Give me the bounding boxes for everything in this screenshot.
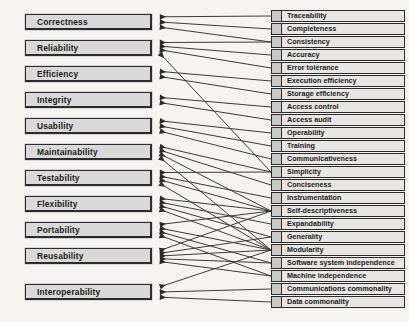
factor-label: Reusability [37, 251, 84, 261]
criterion-tab-marker [272, 219, 282, 229]
criterion-label: Instrumentation [287, 194, 341, 202]
criterion-tab-marker [272, 258, 282, 268]
criterion-tab-marker [272, 245, 282, 255]
criterion-row-communications-commonality[interactable]: Communications commonality [271, 283, 405, 295]
criterion-tab-marker [272, 128, 282, 138]
factor-box-usability[interactable]: Usability [25, 118, 152, 134]
factor-box-portability[interactable]: Portability [25, 222, 152, 238]
criterion-label: Access audit [287, 116, 331, 124]
edge-correctness-to-consistency [160, 27, 271, 42]
factor-label: Usability [37, 121, 73, 131]
criterion-row-completeness[interactable]: Completeness [271, 23, 405, 35]
factor-box-maintainability[interactable]: Maintainability [25, 144, 152, 160]
criterion-tab-marker [272, 11, 282, 21]
criterion-row-self-descriptiveness[interactable]: Self-descriptiveness [271, 205, 405, 217]
edge-interoperability-to-data-commonality [160, 297, 271, 302]
criterion-label: Data commonality [287, 298, 349, 306]
criterion-tab-marker [272, 24, 282, 34]
edge-usability-to-training [160, 126, 271, 146]
factor-label: Correctness [37, 17, 88, 27]
criterion-tab-marker [272, 206, 282, 216]
criterion-label: Communicativeness [287, 155, 357, 163]
edge-testability-to-simplicity [160, 172, 271, 173]
criterion-tab-marker [272, 115, 282, 125]
criterion-tab-marker [272, 154, 282, 164]
factor-box-reliability[interactable]: Reliability [25, 40, 152, 56]
factor-label: Flexibility [37, 199, 78, 209]
criterion-row-communicativeness[interactable]: Communicativeness [271, 153, 405, 165]
criterion-label: Simplicity [287, 168, 321, 176]
criterion-row-instrumentation[interactable]: Instrumentation [271, 192, 405, 204]
criterion-row-generality[interactable]: Generality [271, 231, 405, 243]
criterion-tab-marker [272, 284, 282, 294]
criterion-label: Execution efficiency [287, 77, 357, 85]
criterion-tab-marker [272, 297, 282, 307]
factor-label: Efficiency [37, 69, 78, 79]
criterion-row-software-system-independence[interactable]: Software system independence [271, 257, 405, 269]
criterion-label: Storage efficiency [287, 90, 349, 98]
criterion-row-training[interactable]: Training [271, 140, 405, 152]
criterion-tab-marker [272, 180, 282, 190]
criterion-label: Self-descriptiveness [287, 207, 357, 215]
edge-maintainability-to-simplicity [160, 147, 271, 173]
factor-box-testability[interactable]: Testability [25, 170, 152, 186]
edge-reliability-to-error-tolerance [160, 50, 271, 68]
criterion-label: Expandability [287, 220, 334, 228]
criterion-row-traceability[interactable]: Traceability [271, 10, 405, 22]
criterion-row-access-control[interactable]: Access control [271, 101, 405, 113]
criterion-tab-marker [272, 89, 282, 99]
criterion-label: Access control [287, 103, 339, 111]
edge-maintainability-to-self-descriptiveness [160, 154, 271, 211]
criterion-row-conciseness[interactable]: Conciseness [271, 179, 405, 191]
criterion-tab-marker [272, 193, 282, 203]
criterion-label: Traceability [287, 12, 327, 20]
criterion-row-storage-efficiency[interactable]: Storage efficiency [271, 88, 405, 100]
factor-box-flexibility[interactable]: Flexibility [25, 196, 152, 212]
criterion-row-operability[interactable]: Operability [271, 127, 405, 139]
criterion-row-access-audit[interactable]: Access audit [271, 114, 405, 126]
criterion-tab-marker [272, 76, 282, 86]
edge-usability-to-operability [160, 121, 271, 133]
criterion-tab-marker [272, 63, 282, 73]
criterion-row-error-tolerance[interactable]: Error tolerance [271, 62, 405, 74]
criterion-row-modularity[interactable]: Modularity [271, 244, 405, 256]
criterion-row-simplicity[interactable]: Simplicity [271, 166, 405, 178]
edge-reliability-to-consistency [160, 42, 271, 43]
criterion-row-machine-independence[interactable]: Machine independence [271, 270, 405, 282]
edge-usability-to-communicativeness [160, 131, 271, 159]
edge-flexibility-to-self-descriptiveness [160, 199, 271, 212]
factor-box-correctness[interactable]: Correctness [25, 14, 152, 30]
criterion-tab-marker [272, 102, 282, 112]
edge-reliability-to-simplicity [160, 54, 271, 173]
criterion-tab-marker [272, 141, 282, 151]
connector-lines [160, 16, 271, 302]
criterion-row-execution-efficiency[interactable]: Execution efficiency [271, 75, 405, 87]
criterion-row-data-commonality[interactable]: Data commonality [271, 296, 405, 308]
criterion-label: Modularity [287, 246, 323, 254]
factor-label: Reliability [37, 43, 78, 53]
criterion-label: Training [287, 142, 315, 150]
edge-reliability-to-accuracy [160, 46, 271, 55]
criterion-row-consistency[interactable]: Consistency [271, 36, 405, 48]
criterion-tab-marker [272, 232, 282, 242]
factor-box-efficiency[interactable]: Efficiency [25, 66, 152, 82]
factor-box-interoperability[interactable]: Interoperability [25, 284, 152, 300]
factor-label: Maintainability [37, 147, 98, 157]
criterion-tab-marker [272, 37, 282, 47]
criterion-tab-marker [272, 50, 282, 60]
factor-label: Testability [37, 173, 80, 183]
edge-flexibility-to-generality [160, 206, 271, 237]
quality-factors-criteria-diagram: CorrectnessReliabilityEfficiencyIntegrit… [0, 0, 409, 322]
edge-correctness-to-traceability [160, 16, 271, 17]
criterion-label: Communications commonality [287, 285, 392, 293]
criterion-label: Completeness [287, 25, 336, 33]
criterion-label: Generality [287, 233, 322, 241]
factor-box-reusability[interactable]: Reusability [25, 248, 152, 264]
criterion-row-accuracy[interactable]: Accuracy [271, 49, 405, 61]
criterion-label: Error tolerance [287, 64, 339, 72]
criterion-tab-marker [272, 271, 282, 281]
criterion-row-expandability[interactable]: Expandability [271, 218, 405, 230]
factor-box-integrity[interactable]: Integrity [25, 92, 152, 108]
edge-correctness-to-completeness [160, 22, 271, 29]
criterion-label: Operability [287, 129, 325, 137]
